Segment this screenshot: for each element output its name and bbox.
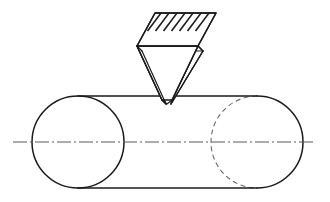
- technical-drawing-canvas: [0, 0, 330, 202]
- drawing-svg: [0, 0, 330, 202]
- knurling-wedge-tool: [137, 13, 216, 104]
